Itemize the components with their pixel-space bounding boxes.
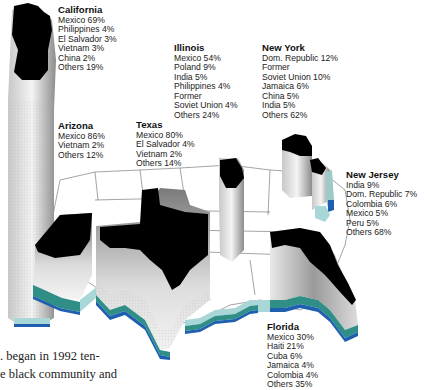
state-name: Illinois (174, 43, 238, 54)
state-name: Texas (136, 120, 195, 131)
origin-row: Others 12% (58, 151, 105, 161)
origin-row: Others 62% (262, 111, 338, 121)
origin-row: Others 68% (346, 228, 417, 238)
origin-row: Others 19% (58, 63, 117, 73)
state-name: New York (262, 43, 338, 54)
state-name: Arizona (58, 121, 105, 132)
illinois-column (219, 158, 244, 262)
label-florida: Florida Mexico 30% Haiti 21% Cuba 6% Jam… (267, 322, 318, 390)
state-name: California (58, 5, 117, 16)
label-newyork: New York Dom. Republic 12% Former Soviet… (262, 43, 338, 121)
label-arizona: Arizona Mexico 86% Vietnam 2% Others 12% (58, 121, 105, 160)
body-text-line-1: . began in 1992 ten- (0, 349, 100, 364)
label-newjersey: New Jersey India 9% Dom. Republic 7% Col… (346, 170, 417, 238)
label-illinois: Illinois Mexico 54% Poland 9% India 5% P… (174, 43, 238, 121)
origin-row: Others 35% (267, 380, 318, 390)
label-california: California Mexico 69% Philippines 4% El … (58, 5, 117, 73)
state-name: Florida (267, 322, 318, 333)
label-texas: Texas Mexico 80% El Salvador 4% Vietnam … (136, 120, 195, 169)
origin-row: Others 24% (174, 111, 238, 121)
state-name: New Jersey (346, 170, 417, 181)
origin-row: Others 14% (136, 159, 195, 169)
body-text-line-2: e black community and (0, 367, 117, 382)
